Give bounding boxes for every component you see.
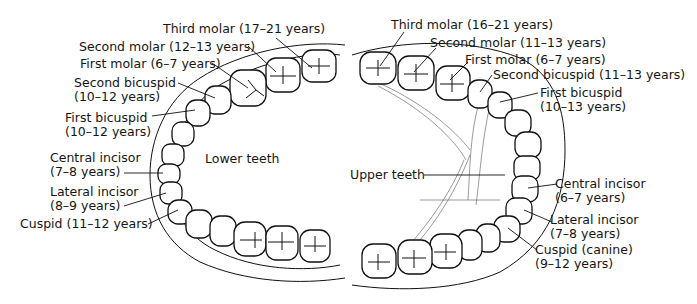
label-lower-cuspid: Cuspid (11–12 years) bbox=[20, 217, 153, 231]
eruption-age: (12–13 years) bbox=[169, 39, 255, 54]
eruption-age: (16–21 years) bbox=[467, 17, 553, 32]
label-upper-cuspid: Cuspid (canine) (9–12 years) bbox=[535, 243, 633, 271]
tooth-name: Lateral incisor bbox=[50, 185, 139, 199]
eruption-age: (11–13 years) bbox=[520, 35, 606, 50]
eruption-age: (7–8 years) bbox=[550, 227, 639, 241]
eruption-age: (11–13 years) bbox=[599, 67, 685, 82]
label-lower-third-molar: Third molar (17–21 years) bbox=[163, 22, 325, 36]
eruption-age: (11–12 years) bbox=[67, 216, 153, 231]
eruption-age: (6–7 years) bbox=[535, 52, 605, 67]
label-upper-central-incisor: Central incisor (6–7 years) bbox=[555, 177, 646, 205]
tooth-name: Second bicuspid bbox=[74, 76, 176, 90]
eruption-age: (10–13 years) bbox=[540, 100, 626, 114]
tooth-name: First molar bbox=[465, 52, 531, 67]
eruption-age: (17–21 years) bbox=[239, 21, 325, 36]
label-upper-third-molar: Third molar (16–21 years) bbox=[391, 18, 553, 32]
upper-teeth-title: Upper teeth bbox=[350, 168, 425, 182]
eruption-age: (10–12 years) bbox=[65, 125, 151, 139]
eruption-age: (8–9 years) bbox=[50, 199, 139, 213]
label-upper-first-molar: First molar (6–7 years) bbox=[465, 53, 606, 67]
label-upper-first-bicuspid: First bicuspid (10–13 years) bbox=[540, 86, 626, 114]
upper-first-molar-top bbox=[436, 66, 470, 100]
tooth-name: Cuspid (canine) bbox=[535, 243, 633, 257]
tooth-name: Third molar bbox=[163, 21, 235, 36]
tooth-name: Second bicuspid bbox=[493, 67, 595, 82]
eruption-age: (6–7 years) bbox=[150, 56, 220, 71]
tooth-name: Cuspid bbox=[20, 216, 63, 231]
eruption-age: (7–8 years) bbox=[50, 165, 141, 179]
label-upper-second-bicuspid: Second bicuspid (11–13 years) bbox=[493, 68, 685, 82]
lower-central-incisor bbox=[158, 164, 180, 184]
tooth-name: Second molar bbox=[430, 35, 516, 50]
eruption-age: (9–12 years) bbox=[535, 257, 633, 271]
tooth-eruption-diagram: Third molar (17–21 years) Second molar (… bbox=[0, 0, 697, 304]
label-lower-central-incisor: Central incisor (7–8 years) bbox=[50, 151, 141, 179]
tooth-name: Central incisor bbox=[50, 151, 141, 165]
label-lower-first-bicuspid: First bicuspid (10–12 years) bbox=[65, 111, 151, 139]
label-upper-second-molar: Second molar (11–13 years) bbox=[430, 36, 606, 50]
lower-teeth-title: Lower teeth bbox=[205, 152, 280, 166]
eruption-age: (6–7 years) bbox=[555, 191, 646, 205]
label-lower-first-molar: First molar (6–7 years) bbox=[80, 57, 221, 71]
label-lower-lateral-incisor: Lateral incisor (8–9 years) bbox=[50, 185, 139, 213]
tooth-name: First bicuspid bbox=[540, 86, 626, 100]
tooth-name: Lateral incisor bbox=[550, 213, 639, 227]
eruption-age: (10–12 years) bbox=[74, 90, 176, 104]
label-upper-lateral-incisor: Lateral incisor (7–8 years) bbox=[550, 213, 639, 241]
tooth-name: Central incisor bbox=[555, 177, 646, 191]
tooth-name: Second molar bbox=[79, 39, 165, 54]
tooth-name: First bicuspid bbox=[65, 111, 151, 125]
label-lower-second-molar: Second molar (12–13 years) bbox=[79, 40, 255, 54]
lower-first-bicuspid-top bbox=[186, 100, 210, 126]
tooth-name: First molar bbox=[80, 56, 146, 71]
tooth-name: Third molar bbox=[391, 17, 463, 32]
label-lower-second-bicuspid: Second bicuspid (10–12 years) bbox=[74, 76, 176, 104]
